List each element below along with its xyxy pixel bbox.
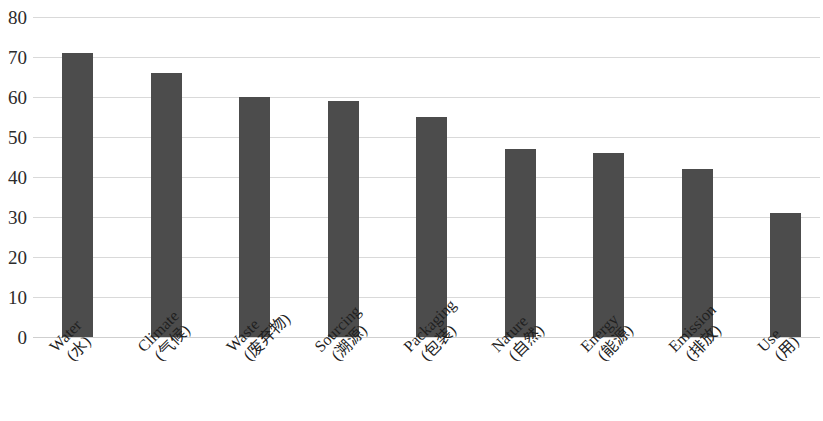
- bar[interactable]: [593, 153, 624, 337]
- plot-area: [33, 17, 820, 337]
- y-tick-label: 70: [0, 48, 27, 67]
- bar[interactable]: [770, 213, 801, 337]
- y-tick-label: 20: [0, 248, 27, 267]
- y-tick-label: 30: [0, 208, 27, 227]
- bar[interactable]: [505, 149, 536, 337]
- y-axis: 01020304050607080: [0, 17, 27, 337]
- y-tick-label: 60: [0, 88, 27, 107]
- bar[interactable]: [151, 73, 182, 337]
- y-tick-label: 50: [0, 128, 27, 147]
- y-tick-label: 10: [0, 288, 27, 307]
- y-tick-label: 80: [0, 8, 27, 27]
- x-axis: Water(水)Climate(气候)Waste(废弃物)Sourcing(溯源…: [0, 337, 823, 421]
- bar[interactable]: [62, 53, 93, 337]
- gridline: [33, 17, 820, 18]
- bar[interactable]: [328, 101, 359, 337]
- gridline: [33, 57, 820, 58]
- y-tick-label: 40: [0, 168, 27, 187]
- bar-chart: 01020304050607080 Water(水)Climate(气候)Was…: [0, 0, 823, 421]
